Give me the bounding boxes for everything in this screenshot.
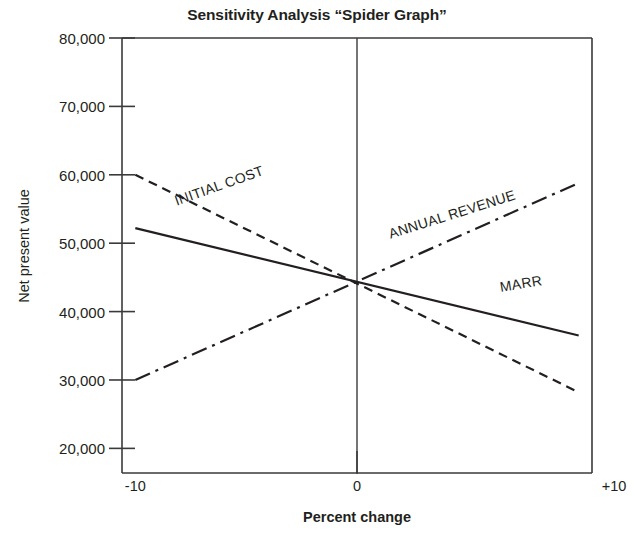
axis-ticks xyxy=(109,38,357,474)
axes xyxy=(122,38,592,473)
spider-graph-figure: Sensitivity Analysis “Spider Graph” Net … xyxy=(0,0,634,539)
plot-area xyxy=(0,0,634,539)
